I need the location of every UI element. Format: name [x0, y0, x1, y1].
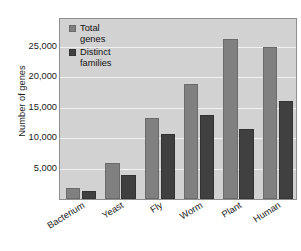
bar	[66, 188, 81, 199]
bar-group	[145, 19, 176, 199]
legend-label-total-genes: Total genes	[80, 23, 105, 44]
bar	[121, 175, 136, 199]
legend-swatch-icon-distinct-families	[69, 49, 76, 56]
bar	[279, 101, 294, 200]
bar	[263, 47, 278, 199]
gene-count-bar-chart: Number of genes 5,00010,00015,00020,0002…	[0, 0, 301, 251]
legend-item-distinct-families: Distinct families	[69, 47, 112, 68]
y-axis-tick-label: 25,000	[16, 41, 57, 51]
bar-group	[184, 19, 215, 199]
bar	[82, 191, 97, 200]
legend-item-total-genes: Total genes	[69, 23, 112, 44]
y-axis-tick-label: 20,000	[16, 71, 57, 81]
chart-legend: Total genes Distinct families	[69, 23, 112, 71]
bar	[223, 39, 238, 199]
x-axis-tick-labels: BacteriumYeastFlyWormPlantHuman	[59, 200, 297, 251]
y-axis-tick-label: 10,000	[16, 132, 57, 142]
bar	[239, 129, 254, 200]
plot-area: Total genes Distinct families	[59, 18, 297, 200]
bar-group	[263, 19, 294, 199]
legend-swatch-icon-total-genes	[69, 25, 76, 32]
bar	[145, 118, 160, 200]
bar	[184, 84, 199, 200]
y-axis-tick-label: 15,000	[16, 102, 57, 112]
bar-group	[223, 19, 254, 199]
legend-label-distinct-families: Distinct families	[80, 47, 112, 68]
y-axis-tick-label: 5,000	[16, 163, 57, 173]
bar	[200, 115, 215, 200]
bar	[161, 134, 176, 199]
y-axis-tick-labels: 5,00010,00015,00020,00025,000	[16, 0, 57, 251]
bar	[105, 163, 120, 200]
